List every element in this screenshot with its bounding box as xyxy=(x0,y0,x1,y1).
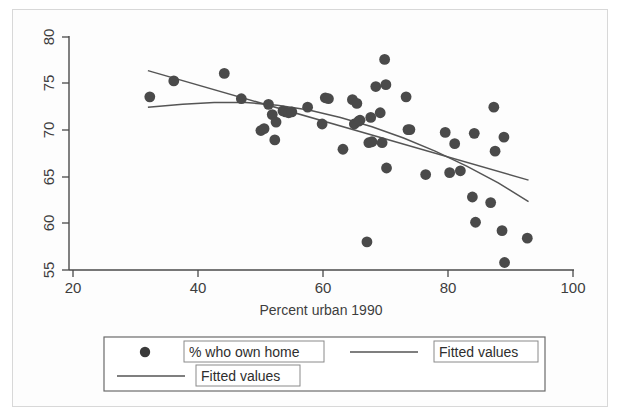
data-point xyxy=(499,257,510,268)
data-point xyxy=(401,91,412,102)
legend: % who own home Fitted values Fitted valu… xyxy=(104,337,545,391)
data-point xyxy=(317,119,328,130)
chart-figure: 80 75 70 65 60 55 20 40 60 80 100 Percen… xyxy=(0,0,621,419)
data-point xyxy=(286,106,297,117)
data-point xyxy=(485,197,496,208)
y-tick-label-70: 70 xyxy=(40,122,57,139)
x-ticks-group xyxy=(73,270,573,277)
y-tick-label-75: 75 xyxy=(40,75,57,92)
data-point xyxy=(470,217,481,228)
y-tick-label-65: 65 xyxy=(40,169,57,186)
data-point xyxy=(271,117,282,128)
data-point xyxy=(379,54,390,65)
x-tick-label-60: 60 xyxy=(315,279,332,296)
data-point xyxy=(351,98,362,109)
x-tick-label-100: 100 xyxy=(560,279,585,296)
y-ticks-group xyxy=(62,37,69,270)
fitted-line-linear xyxy=(148,71,529,181)
data-point xyxy=(365,112,376,123)
data-point xyxy=(420,169,431,180)
x-tick-labels-group: 20 40 60 80 100 xyxy=(65,279,586,296)
data-point xyxy=(490,146,501,157)
data-point xyxy=(497,225,508,236)
data-point xyxy=(404,124,415,135)
data-point xyxy=(362,237,373,248)
data-point xyxy=(444,167,455,178)
data-point xyxy=(219,68,230,79)
legend-label-fitted-2: Fitted values xyxy=(201,368,280,384)
data-point xyxy=(323,93,334,104)
x-axis-title: Percent urban 1990 xyxy=(260,302,383,318)
data-point xyxy=(269,135,280,146)
data-point xyxy=(367,136,378,147)
data-point xyxy=(168,76,179,87)
data-point xyxy=(263,99,274,110)
y-tick-label-55: 55 xyxy=(40,262,57,279)
fitted-line-quadratic xyxy=(148,102,529,201)
data-point xyxy=(302,102,313,113)
data-point xyxy=(380,79,391,90)
data-point xyxy=(144,91,155,102)
x-tick-label-80: 80 xyxy=(440,279,457,296)
data-point xyxy=(488,102,499,113)
data-point xyxy=(370,81,381,92)
data-point xyxy=(455,165,466,176)
data-point xyxy=(499,132,510,143)
data-point xyxy=(469,128,480,139)
data-point xyxy=(355,115,366,126)
data-point xyxy=(338,144,349,155)
x-tick-label-20: 20 xyxy=(65,279,82,296)
data-point xyxy=(375,107,386,118)
data-point xyxy=(259,123,270,134)
data-point xyxy=(381,163,392,174)
y-tick-labels-group: 80 75 70 65 60 55 xyxy=(40,29,57,279)
scatter-plot-svg: 80 75 70 65 60 55 20 40 60 80 100 Percen… xyxy=(0,0,621,419)
data-point xyxy=(377,137,388,148)
data-point xyxy=(236,93,247,104)
x-tick-label-40: 40 xyxy=(190,279,207,296)
y-tick-label-80: 80 xyxy=(40,29,57,46)
data-point xyxy=(449,138,460,149)
y-tick-label-60: 60 xyxy=(40,215,57,232)
data-point xyxy=(467,192,478,203)
data-point xyxy=(440,127,451,138)
legend-label-fitted-1: Fitted values xyxy=(439,344,518,360)
data-point xyxy=(522,233,533,244)
legend-label-own-home: % who own home xyxy=(189,344,300,360)
legend-marker-icon xyxy=(140,347,150,357)
